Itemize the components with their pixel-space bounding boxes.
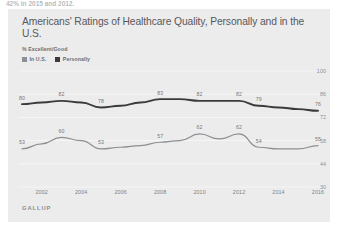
point-label-personally: 82 (197, 91, 203, 97)
chart-legend: In U.S. Personally (22, 56, 90, 62)
line-chart-svg: 80827883828279765360535762625455 (22, 71, 318, 187)
y-axis-tick: 58 (304, 138, 326, 144)
x-axis-tick: 2012 (233, 189, 245, 195)
x-axis: 20022004200620082010201220142016 (22, 189, 318, 199)
chart-card: Americans' Ratings of Healthcare Quality… (8, 9, 330, 222)
series-line-in_us (22, 134, 318, 149)
point-label-in_us: 57 (157, 133, 163, 139)
point-label-personally: 82 (58, 91, 64, 97)
legend-swatch-personally (55, 57, 60, 62)
point-label-personally: 79 (256, 96, 262, 102)
point-label-in_us: 53 (98, 139, 104, 145)
x-axis-tick: 2010 (193, 189, 205, 195)
legend-swatch-in-us (22, 57, 27, 62)
point-label-personally: 82 (236, 91, 242, 97)
page-body-text-fragment: 42% in 2015 and 2012. (6, 0, 206, 7)
point-label-in_us: 54 (256, 138, 262, 144)
legend-item-personally[interactable]: Personally (55, 56, 90, 62)
x-axis-tick: 2006 (114, 189, 126, 195)
point-label-personally: 83 (157, 90, 163, 96)
point-label-in_us: 62 (236, 124, 242, 130)
chart-card-inner: Americans' Ratings of Healthcare Quality… (8, 9, 330, 222)
y-axis-tick: 86 (304, 91, 326, 97)
x-axis-tick: 2014 (272, 189, 284, 195)
chart-plot-area: 80827883828279765360535762625455 (22, 71, 318, 187)
chart-subtitle: % Excellent/Good (22, 46, 67, 52)
gallup-logo-text: GALLUP (22, 205, 51, 211)
point-label-personally: 78 (98, 98, 104, 104)
point-label-personally: 80 (19, 95, 25, 101)
legend-label-in-us: In U.S. (30, 56, 47, 62)
series-line-personally (22, 99, 318, 111)
chart-title: Americans' Ratings of Healthcare Quality… (22, 16, 312, 40)
x-axis-tick: 2008 (154, 189, 166, 195)
x-axis-tick: 2004 (75, 189, 87, 195)
y-axis-tick: 44 (304, 161, 326, 167)
legend-label-personally: Personally (63, 56, 90, 62)
x-axis-tick: 2016 (312, 189, 324, 195)
y-axis-tick: 72 (304, 114, 326, 120)
point-label-in_us: 60 (58, 128, 64, 134)
point-label-in_us: 62 (197, 124, 203, 130)
x-axis-tick: 2002 (36, 189, 48, 195)
y-axis-tick: 100 (304, 68, 326, 74)
legend-item-in-us[interactable]: In U.S. (22, 56, 46, 62)
y-axis: 1008672584430 (304, 71, 326, 187)
point-label-in_us: 53 (19, 139, 25, 145)
